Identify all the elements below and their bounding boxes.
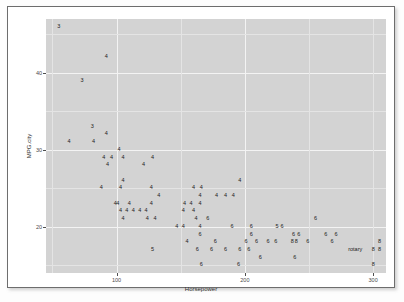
x-tick-mark (117, 273, 118, 276)
data-point-label: 4 (189, 201, 192, 207)
data-point-label: 6 (259, 255, 262, 261)
data-point-label: 6 (196, 247, 199, 253)
data-point-label: 6 (292, 232, 295, 238)
figure-frame: 3433444444444444444444444444444444444444… (7, 6, 395, 288)
y-tick-label: 20 (30, 224, 42, 230)
data-point-label: 6 (224, 247, 227, 253)
y-tick-mark (43, 227, 46, 228)
data-point-label: 6 (281, 224, 284, 230)
data-point-label: 8 (378, 247, 381, 253)
data-point-label: 6 (237, 263, 240, 269)
data-point-label: 8 (372, 263, 375, 269)
data-point-label: 4 (232, 193, 235, 199)
data-point-label: 6 (314, 216, 317, 222)
data-point-label: 6 (306, 239, 309, 245)
x-tick-mark (373, 273, 374, 276)
data-point-label: 4 (182, 209, 185, 215)
data-point-label: 4 (128, 201, 131, 207)
data-point-label: 6 (255, 239, 258, 245)
data-point-label: 4 (150, 201, 153, 207)
x-tick-label: 200 (240, 277, 249, 283)
gridline-y-minor (46, 188, 386, 189)
data-point-label: 4 (195, 216, 198, 222)
data-point-label: 6 (331, 239, 334, 245)
x-axis-title: Horsepower (8, 286, 394, 292)
data-point-label: 6 (198, 232, 201, 238)
data-point-label: 3 (80, 78, 83, 84)
y-tick-mark (43, 150, 46, 151)
data-point-label: 4 (102, 155, 105, 161)
data-point-label: 4 (119, 186, 122, 192)
data-point-label: 8 (378, 239, 381, 245)
data-point-label: 4 (142, 162, 145, 168)
data-point-label: 5 (275, 224, 278, 230)
data-point-label: 4 (238, 178, 241, 184)
data-point-label: 4 (106, 162, 109, 168)
data-point-label: 6 (247, 247, 250, 253)
data-point-label: 4 (125, 209, 128, 215)
y-axis-title: MPG.city (26, 134, 32, 158)
data-point-label: 6 (231, 224, 234, 230)
data-point-label: 4 (198, 193, 201, 199)
plot-panel: 3433444444444444444444444444444444444444… (46, 19, 386, 273)
data-point-label: 6 (214, 239, 217, 245)
gridline-y-minor (46, 34, 386, 35)
data-point-label: 5 (151, 247, 154, 253)
x-tick-mark (245, 273, 246, 276)
data-point-label: 6 (324, 232, 327, 238)
data-point-label: 6 (334, 232, 337, 238)
data-point-label: 4 (150, 186, 153, 192)
data-point-label: 4 (154, 216, 157, 222)
data-point-label: 8 (295, 239, 298, 245)
gridline-y-major (46, 73, 386, 74)
data-point-label: 4 (145, 209, 148, 215)
gridline-x-minor (52, 19, 53, 273)
screenshot-root: 3433444444444444444444444444444444444444… (0, 0, 404, 302)
data-point-label: 6 (274, 239, 277, 245)
gridline-x-minor (373, 19, 374, 273)
data-point-label: 4 (110, 155, 113, 161)
data-point-label: 8 (291, 239, 294, 245)
data-point-label: 4 (119, 209, 122, 215)
data-point-label: 8 (372, 247, 375, 253)
data-point-label: 4 (121, 155, 124, 161)
data-point-label: 4 (182, 224, 185, 230)
data-point-label: 4 (183, 201, 186, 207)
data-point-label: 4 (116, 201, 119, 207)
data-point-label: rotary (348, 247, 362, 253)
x-tick-label: 100 (112, 277, 121, 283)
y-tick-mark (43, 73, 46, 74)
data-point-label: 4 (105, 132, 108, 138)
data-point-label: 6 (206, 216, 209, 222)
y-tick-label: 40 (30, 70, 42, 76)
data-point-label: 4 (121, 178, 124, 184)
gridline-y-major (46, 150, 386, 151)
data-point-label: 4 (138, 209, 141, 215)
data-point-label: 6 (250, 224, 253, 230)
data-point-label: 4 (175, 224, 178, 230)
data-point-label: 3 (91, 124, 94, 130)
data-point-label: 4 (121, 216, 124, 222)
data-point-label: 6 (245, 239, 248, 245)
gridline-x-major (245, 19, 246, 273)
data-point-label: 4 (200, 186, 203, 192)
data-point-label: 4 (68, 139, 71, 145)
gridline-x-minor (181, 19, 182, 273)
gridline-y-minor (46, 265, 386, 266)
data-point-label: 6 (297, 232, 300, 238)
data-point-label: 4 (198, 224, 201, 230)
data-point-label: 4 (157, 193, 160, 199)
data-point-label: 4 (118, 147, 121, 153)
data-point-label: 4 (198, 201, 201, 207)
data-point-label: 6 (250, 232, 253, 238)
data-point-label: 4 (192, 186, 195, 192)
data-point-label: 4 (100, 186, 103, 192)
gridline-y-minor (46, 111, 386, 112)
x-tick-label: 300 (369, 277, 378, 283)
data-point-label: 6 (266, 239, 269, 245)
gridline-y-major (46, 227, 386, 228)
data-point-label: 4 (132, 209, 135, 215)
data-point-label: 4 (151, 155, 154, 161)
data-point-label: 4 (192, 209, 195, 215)
data-point-label: 4 (105, 55, 108, 61)
